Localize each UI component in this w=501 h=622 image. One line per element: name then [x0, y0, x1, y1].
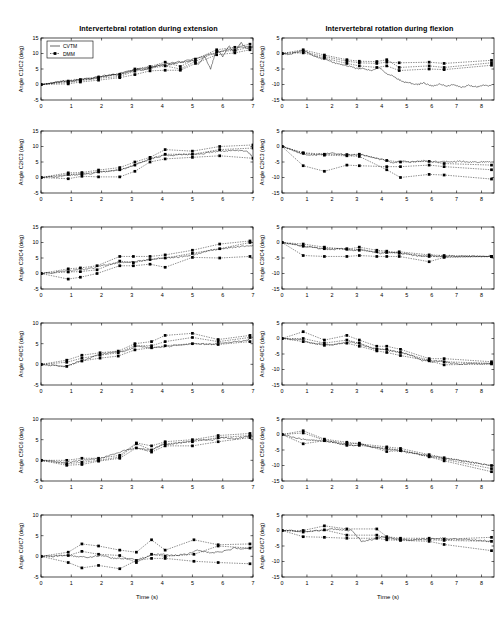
- data-marker: [490, 540, 493, 543]
- data-marker: [81, 550, 84, 553]
- svg-text:3: 3: [355, 484, 358, 490]
- svg-text:1: 1: [305, 103, 308, 109]
- svg-text:0: 0: [40, 388, 43, 394]
- data-marker: [281, 433, 284, 436]
- data-marker: [81, 543, 84, 546]
- data-marker: [323, 246, 326, 249]
- data-marker: [323, 255, 326, 258]
- data-marker: [150, 451, 153, 454]
- data-marker: [375, 534, 378, 537]
- chart-panel-extension-c1c2: 01234567-5051015Angle C1/C2 (deg)CVTMDMM: [3, 30, 275, 132]
- svg-text:5: 5: [405, 292, 408, 298]
- data-marker: [40, 555, 43, 558]
- chart-panel-extension-c4c5: 01234567-50510Angle C4/C5 (deg): [3, 315, 275, 417]
- data-marker: [118, 76, 121, 79]
- svg-text:3: 3: [130, 388, 133, 394]
- data-marker: [191, 249, 194, 252]
- data-marker: [399, 165, 402, 168]
- data-marker: [118, 260, 121, 263]
- data-marker: [346, 58, 349, 61]
- data-marker: [149, 258, 152, 261]
- svg-text:2: 2: [330, 292, 333, 298]
- data-marker: [346, 255, 349, 258]
- data-marker: [323, 439, 326, 442]
- data-marker: [149, 161, 152, 164]
- data-marker: [99, 351, 102, 354]
- svg-text:5: 5: [191, 388, 194, 394]
- series-dmm-3: [41, 256, 250, 279]
- data-marker: [67, 268, 70, 271]
- svg-text:-15: -15: [272, 286, 280, 292]
- data-marker: [149, 65, 152, 68]
- svg-text:0: 0: [36, 81, 39, 87]
- svg-text:2: 2: [100, 388, 103, 394]
- data-marker: [67, 278, 70, 281]
- series-dmm-2: [41, 333, 250, 364]
- data-marker: [302, 340, 305, 343]
- data-marker: [217, 434, 220, 437]
- data-marker: [428, 164, 431, 167]
- svg-text:6: 6: [221, 484, 224, 490]
- data-marker: [490, 470, 493, 473]
- data-marker: [164, 340, 167, 343]
- data-marker: [358, 60, 361, 63]
- data-marker: [134, 68, 137, 71]
- chart-panel-flexion-c1c2: 012345678-15-10-505Angle C1/C2 (deg): [244, 30, 501, 132]
- data-marker: [428, 255, 431, 258]
- svg-text:-10: -10: [272, 462, 280, 468]
- data-marker: [179, 69, 182, 72]
- svg-text:4: 4: [380, 580, 383, 586]
- chart-panel-flexion-c4c5: 012345678-15-10-505Angle C4/C5 (deg): [244, 315, 501, 417]
- data-marker: [134, 161, 137, 164]
- y-axis-label: Angle C1/C2 (deg): [259, 46, 265, 92]
- y-axis-label: Angle C6/C7 (deg): [259, 523, 265, 569]
- data-marker: [490, 255, 493, 258]
- data-marker: [428, 260, 431, 263]
- data-marker: [132, 255, 135, 258]
- data-marker: [132, 261, 135, 264]
- svg-text:-5: -5: [275, 351, 280, 357]
- data-marker: [443, 255, 446, 258]
- data-marker: [385, 538, 388, 541]
- data-marker: [67, 561, 70, 564]
- svg-text:0: 0: [281, 484, 284, 490]
- data-marker: [149, 70, 152, 73]
- data-marker: [428, 160, 431, 163]
- data-marker: [149, 255, 152, 258]
- data-marker: [65, 359, 68, 362]
- svg-text:5: 5: [191, 484, 194, 490]
- data-marker: [118, 549, 121, 552]
- data-marker: [164, 344, 167, 347]
- data-marker: [398, 255, 401, 258]
- data-marker: [323, 339, 326, 342]
- data-marker: [65, 464, 68, 467]
- data-marker: [385, 65, 388, 68]
- data-marker: [490, 168, 493, 171]
- y-axis-label: Angle C6/C7 (deg): [18, 523, 24, 569]
- data-marker: [134, 164, 137, 167]
- data-marker: [97, 460, 100, 463]
- data-marker: [375, 249, 378, 252]
- svg-text:5: 5: [405, 196, 408, 202]
- svg-text:0: 0: [281, 388, 284, 394]
- data-marker: [346, 164, 349, 167]
- data-marker: [302, 442, 305, 445]
- svg-text:6: 6: [430, 484, 433, 490]
- data-marker: [81, 360, 84, 363]
- data-marker: [385, 159, 388, 162]
- data-marker: [385, 250, 388, 253]
- data-marker: [490, 536, 493, 539]
- data-marker: [375, 345, 378, 348]
- data-marker: [323, 54, 326, 57]
- data-marker: [118, 457, 121, 460]
- data-marker: [118, 176, 121, 179]
- data-marker: [398, 66, 401, 69]
- data-marker: [346, 339, 349, 342]
- data-marker: [443, 357, 446, 360]
- svg-text:6: 6: [430, 196, 433, 202]
- svg-text:8: 8: [480, 580, 483, 586]
- data-marker: [375, 255, 378, 258]
- data-marker: [179, 65, 182, 68]
- svg-text:5: 5: [277, 224, 280, 230]
- data-marker: [118, 73, 121, 76]
